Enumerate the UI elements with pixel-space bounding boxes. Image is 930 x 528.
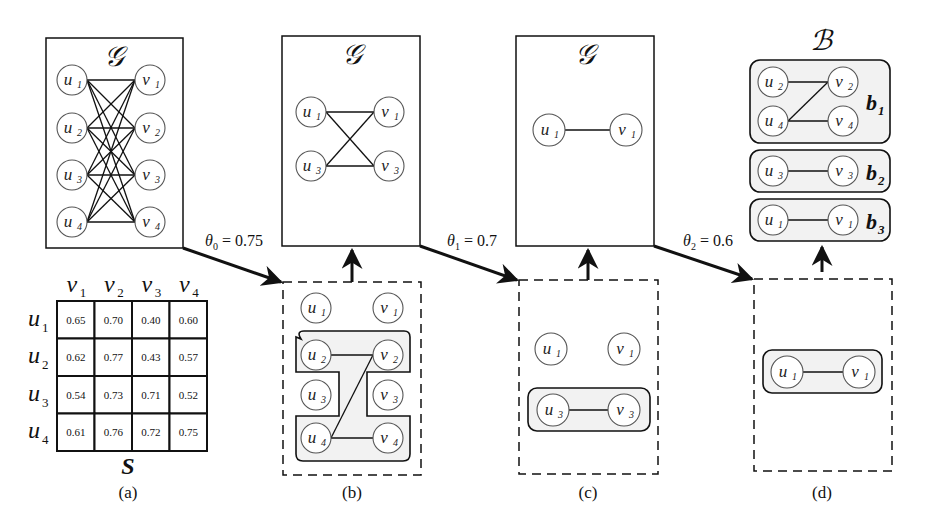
svg-text:v: v [380,428,388,447]
svg-text:3: 3 [154,174,160,185]
svg-text:v: v [104,271,115,297]
node-u1: u1 [57,65,87,95]
svg-text:v: v [835,72,843,91]
node-u1: u1 [301,293,331,323]
svg-text:3: 3 [315,165,321,176]
node-v1: v1 [610,114,642,146]
matrix-cell: 0.73 [95,376,133,414]
svg-text:0.60: 0.60 [179,314,199,326]
node-u2: u2 [57,113,87,143]
svg-text:3: 3 [847,170,853,181]
svg-text:u: u [545,400,554,419]
matrix-cell: 0.71 [132,376,170,414]
matrix-cell: 0.43 [132,339,170,377]
svg-text:θ: θ [205,232,213,249]
svg-text:3: 3 [777,170,783,181]
arrow-c-to-d [654,246,752,279]
matrix-cell: 0.70 [95,301,133,339]
svg-text:v: v [381,102,389,121]
svg-text:4: 4 [848,120,853,131]
node-u3: u3 [758,156,788,186]
caption-a: (a) [119,483,138,502]
matrix-label: S [121,453,134,479]
node-v1: v1 [135,65,165,95]
matrix-row-header: u4 [28,417,49,447]
svg-text:4: 4 [393,437,398,448]
svg-text:u: u [765,72,774,91]
threshold-label-0: θ 0 = 0.75 [205,232,263,252]
svg-text:4: 4 [155,221,160,232]
matrix-cell: 0.75 [170,414,208,452]
svg-text:4: 4 [192,285,199,300]
node-v1: v1 [843,356,875,388]
svg-text:4: 4 [778,120,783,131]
svg-text:3: 3 [320,394,326,405]
svg-text:b: b [866,90,877,115]
svg-text:4: 4 [321,437,326,448]
matrix-cell: 0.77 [95,339,133,377]
caption-c: (c) [579,483,598,502]
matrix-row-header: u2 [28,342,49,372]
svg-text:3: 3 [557,409,563,420]
svg-text:1: 1 [77,79,82,90]
svg-text:1: 1 [629,348,634,359]
svg-text:3: 3 [76,174,82,185]
svg-text:= 0.7: = 0.7 [460,232,497,249]
matrix-cell: 0.60 [170,301,208,339]
threshold-label-1: θ 1 = 0.7 [447,232,497,252]
svg-text:1: 1 [848,219,853,230]
biclique-set-title: ℬ [810,25,834,56]
node-v3: v3 [135,160,165,190]
matrix-cell: 0.72 [132,414,170,452]
node-v3: v3 [374,151,404,181]
flow-arrows [183,246,822,282]
svg-text:v: v [616,400,624,419]
svg-text:v: v [66,271,77,297]
svg-text:0.71: 0.71 [141,389,160,401]
svg-text:u: u [28,305,40,331]
svg-text:0.43: 0.43 [141,351,161,363]
svg-text:v: v [142,118,150,137]
matrix-cell: 0.65 [57,301,95,339]
matrix-col-header: v2 [104,271,124,300]
svg-text:2: 2 [848,81,853,92]
matrix-cell: 0.54 [57,376,95,414]
svg-text:0.65: 0.65 [66,314,86,326]
svg-text:0.77: 0.77 [104,351,124,363]
svg-text:0.40: 0.40 [141,314,161,326]
svg-text:v: v [380,385,388,404]
node-u4: u4 [758,106,788,136]
threshold-box-c [519,280,658,474]
svg-text:v: v [380,298,388,317]
svg-text:b: b [866,209,877,234]
svg-text:v: v [835,210,843,229]
svg-text:u: u [543,339,552,358]
svg-text:u: u [28,417,40,443]
svg-text:2: 2 [42,357,49,372]
svg-text:1: 1 [792,371,797,382]
svg-text:u: u [28,342,40,368]
svg-text:2: 2 [778,81,783,92]
svg-text:1: 1 [321,307,326,318]
svg-text:θ: θ [447,232,455,249]
svg-text:1: 1 [631,129,636,140]
node-v4: v4 [828,106,858,136]
arrow-b-to-c [420,246,517,280]
svg-text:1: 1 [155,79,160,90]
svg-text:4: 4 [42,432,49,447]
svg-text:= 0.6: = 0.6 [696,232,733,249]
similarity-matrix: 0.650.700.400.600.620.770.430.570.540.73… [28,271,207,479]
svg-text:1: 1 [556,348,561,359]
svg-text:0.76: 0.76 [104,426,124,438]
node-u4: u4 [301,423,331,453]
svg-text:1: 1 [864,371,869,382]
svg-text:u: u [765,161,774,180]
matrix-col-header: v1 [66,271,86,300]
svg-text:0.73: 0.73 [104,389,124,401]
matrix-cell: 0.52 [170,376,208,414]
svg-text:u: u [765,111,774,130]
svg-text:v: v [380,345,388,364]
node-v3: v3 [828,156,858,186]
svg-text:u: u [28,380,40,406]
node-u3: u3 [57,160,87,190]
